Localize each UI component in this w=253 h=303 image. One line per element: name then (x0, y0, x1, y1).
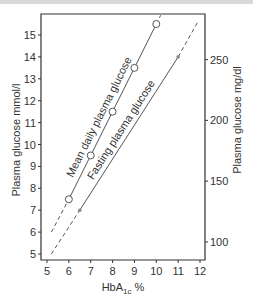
hba1c-glucose-chart: 56789101112131415 100150200250 567891011… (0, 0, 253, 303)
x-tick-label: 7 (88, 265, 94, 277)
y-tick-label: 10 (24, 139, 36, 151)
y-axis-left: 56789101112131415 (24, 29, 41, 260)
x-axis-label: HbA1c % (102, 281, 145, 296)
x-tick-label: 10 (150, 265, 162, 277)
y-tick-label: 15 (24, 29, 36, 41)
open-circle-marker (131, 64, 138, 71)
x-tick-label: 6 (66, 265, 72, 277)
y-tick-label: 7 (30, 204, 36, 216)
x-tick-label: 5 (44, 265, 50, 277)
y-tick-label: 8 (30, 182, 36, 194)
dashed-extension (51, 199, 68, 232)
y-right-tick-label: 200 (210, 114, 228, 126)
y-right-tick-label: 250 (210, 54, 228, 66)
y-tick-label: 6 (30, 226, 36, 238)
y-tick-label: 5 (30, 248, 36, 260)
y-tick-label: 13 (24, 73, 36, 85)
y-axis-label-left: Plasma glucose mmol/l (10, 83, 22, 196)
y-right-tick-label: 150 (210, 175, 228, 187)
x-tick-label: 9 (131, 265, 137, 277)
open-circle-marker (87, 152, 94, 159)
y-tick-label: 11 (25, 117, 36, 129)
y-right-tick-label: 100 (210, 236, 228, 248)
y-axis-right: 100150200250 (205, 54, 228, 248)
series-mean-daily (51, 15, 160, 232)
x-tick-label: 11 (172, 265, 183, 277)
open-circle-marker (65, 196, 72, 203)
x-tick-label: 8 (110, 265, 116, 277)
dashed-extension (178, 22, 198, 57)
x-tick-label: 12 (194, 265, 206, 277)
open-circle-marker (109, 108, 116, 115)
dot-marker (176, 55, 180, 59)
dashed-extension (51, 210, 79, 254)
y-axis-label-right: Plasma glucose mg/dl (231, 66, 243, 174)
y-tick-label: 9 (30, 160, 36, 172)
y-tick-label: 12 (24, 95, 36, 107)
x-axis: 56789101112 (44, 260, 206, 277)
dot-marker (78, 208, 82, 212)
open-circle-marker (153, 21, 160, 28)
y-tick-label: 14 (24, 51, 36, 63)
